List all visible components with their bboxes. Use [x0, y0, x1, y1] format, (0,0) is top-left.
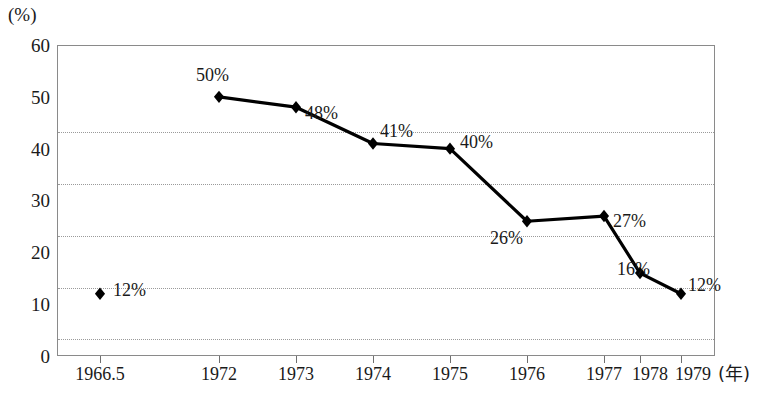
x-tick-mark-1975 — [450, 356, 451, 363]
gridline-20 — [58, 288, 714, 289]
y-tick-label-10: 10 — [6, 295, 50, 314]
y-tick-label-60: 60 — [6, 36, 50, 55]
x-tick-label-1977: 1977 — [586, 365, 622, 383]
data-label-1979: 12% — [688, 276, 721, 294]
data-label-1966-5: 12% — [113, 281, 146, 299]
x-tick-mark-1977 — [604, 356, 605, 363]
x-tick-label-1976: 1976 — [509, 365, 545, 383]
x-tick-label-1975: 1975 — [432, 365, 468, 383]
y-tick-label-20: 20 — [6, 243, 50, 262]
x-tick-mark-1978 — [640, 356, 641, 363]
gridline-40 — [58, 184, 714, 185]
x-tick-mark-1972 — [219, 356, 220, 363]
x-tick-label-1972: 1972 — [201, 365, 237, 383]
x-tick-label-1978: 1978 — [632, 365, 668, 383]
x-tick-label-1973: 1973 — [278, 365, 314, 383]
data-label-1977: 27% — [613, 212, 646, 230]
x-axis-unit-label: (年) — [718, 365, 750, 383]
y-tick-label-40: 40 — [6, 139, 50, 158]
x-tick-mark-1979 — [681, 356, 682, 363]
gridline-30 — [58, 236, 714, 237]
data-label-1974: 41% — [380, 122, 413, 140]
line-chart: (%) 60 50 40 30 20 10 0 1966.5 1972 1973… — [0, 0, 759, 405]
y-axis-unit-label: (%) — [8, 4, 36, 26]
y-tick-label-0: 0 — [6, 347, 50, 366]
gridline-10 — [58, 339, 714, 340]
x-tick-mark-1974 — [373, 356, 374, 363]
y-tick-label-30: 30 — [6, 191, 50, 210]
y-tick-label-50: 50 — [6, 87, 50, 106]
x-tick-label-1966-5: 1966.5 — [75, 365, 125, 383]
plot-area — [57, 45, 715, 356]
x-tick-mark-1976 — [527, 356, 528, 363]
x-tick-label-1979: 1979 — [675, 365, 711, 383]
data-label-1978: 16% — [617, 260, 650, 278]
x-tick-mark-1966-5 — [100, 356, 101, 363]
data-label-1973: 48% — [305, 104, 338, 122]
data-label-1976: 26% — [490, 229, 523, 247]
x-tick-label-1974: 1974 — [355, 365, 391, 383]
data-label-1972: 50% — [196, 66, 229, 84]
data-label-1975: 40% — [460, 133, 493, 151]
x-tick-mark-1973 — [296, 356, 297, 363]
